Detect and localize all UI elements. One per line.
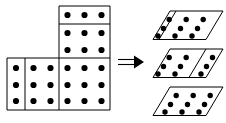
dot [47, 98, 53, 104]
dot [81, 65, 87, 71]
dot [47, 82, 53, 88]
parallelogram-middle-outline [153, 49, 223, 78]
dot [172, 71, 177, 76]
dot [191, 93, 196, 98]
dot [64, 47, 70, 53]
dot [178, 26, 183, 31]
parallelogram-top [153, 11, 223, 40]
parallelogram-middle [153, 49, 223, 78]
dot [13, 98, 19, 104]
dot [167, 17, 172, 22]
dissection-diagram [0, 0, 226, 123]
dot [98, 12, 104, 18]
dot [64, 82, 70, 88]
dot [81, 47, 87, 53]
double-arrow-icon [118, 56, 144, 69]
dot [168, 102, 173, 107]
dot [210, 55, 215, 60]
dot [155, 33, 160, 38]
dot [81, 12, 87, 18]
figure-canvas [0, 0, 226, 123]
dot [98, 65, 104, 71]
dot [204, 64, 209, 69]
dot [201, 17, 206, 22]
dot [174, 93, 179, 98]
dot [13, 82, 19, 88]
dot [196, 109, 201, 114]
dot [64, 12, 70, 18]
dot [30, 82, 36, 88]
dot [161, 26, 166, 31]
dot [184, 55, 189, 60]
dot [195, 26, 200, 31]
dot [81, 82, 87, 88]
dot [81, 30, 87, 36]
dot [178, 64, 183, 69]
dot [202, 102, 207, 107]
dot [162, 109, 167, 114]
dot [64, 65, 70, 71]
dot [184, 17, 189, 22]
dot [30, 65, 36, 71]
dot [47, 65, 53, 71]
source-shape-group [7, 6, 110, 110]
dot [185, 102, 190, 107]
dot [98, 30, 104, 36]
dot [81, 98, 87, 104]
dot [161, 64, 166, 69]
dot [167, 55, 172, 60]
dot [179, 109, 184, 114]
dot [155, 71, 160, 76]
dot [98, 98, 104, 104]
dot [208, 93, 213, 98]
dot [30, 98, 36, 104]
dot [13, 65, 19, 71]
dot [64, 98, 70, 104]
dot [172, 33, 177, 38]
dot [198, 71, 203, 76]
parallelogram-bottom [153, 87, 223, 116]
dot [64, 30, 70, 36]
parallelogram-top-outline [153, 11, 223, 40]
dot [189, 33, 194, 38]
dot [98, 82, 104, 88]
dot [98, 47, 104, 53]
